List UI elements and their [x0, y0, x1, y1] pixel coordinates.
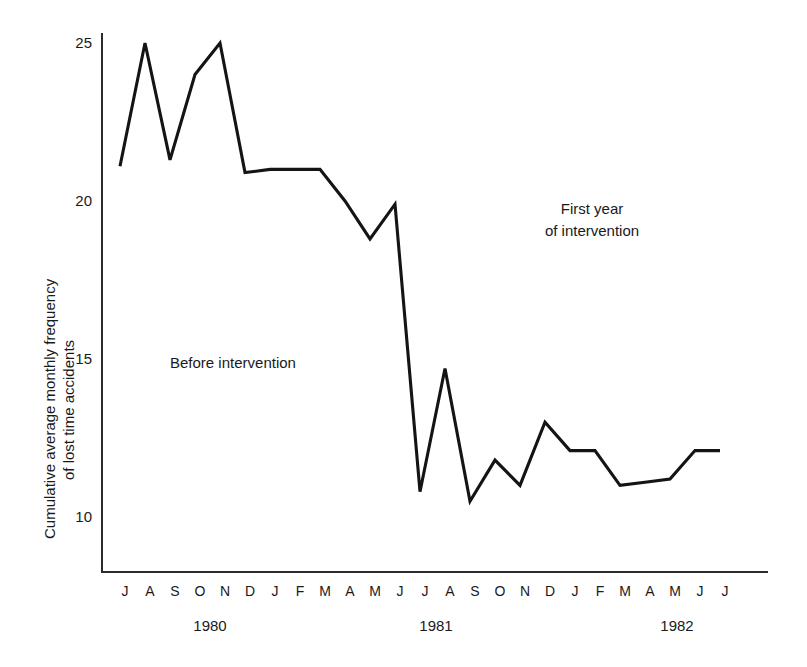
x-group-label-year: 1980 — [180, 617, 240, 634]
annotation-before-intervention: Before intervention — [170, 354, 296, 371]
x-tick-label-month: S — [465, 583, 485, 599]
x-tick-label-month: F — [290, 583, 310, 599]
x-tick-label-month: N — [215, 583, 235, 599]
chart-figure: Cumulative average monthly frequency of … — [0, 0, 807, 667]
x-tick-label-month: M — [315, 583, 335, 599]
x-tick-label-month: A — [440, 583, 460, 599]
x-tick-label-month: J — [415, 583, 435, 599]
x-tick-label-month: S — [165, 583, 185, 599]
data-series-line — [120, 43, 720, 501]
x-tick-label-month: A — [140, 583, 160, 599]
x-group-label-year: 1981 — [406, 617, 466, 634]
annotation-first-year-line-2: of intervention — [497, 220, 687, 242]
x-tick-label-month: M — [615, 583, 635, 599]
x-tick-label-month: J — [565, 583, 585, 599]
x-tick-label-month: J — [690, 583, 710, 599]
x-tick-label-month: D — [240, 583, 260, 599]
annotation-first-year-of-intervention: First year of intervention — [497, 198, 687, 242]
x-group-label-year: 1982 — [647, 617, 707, 634]
x-tick-label-month: F — [590, 583, 610, 599]
x-tick-label-month: D — [540, 583, 560, 599]
x-tick-label-month: J — [715, 583, 735, 599]
annotation-first-year-line-1: First year — [497, 198, 687, 220]
x-tick-label-month: J — [265, 583, 285, 599]
x-tick-label-month: A — [340, 583, 360, 599]
x-tick-label-month: J — [115, 583, 135, 599]
x-tick-label-month: O — [190, 583, 210, 599]
x-tick-label-month: M — [365, 583, 385, 599]
x-tick-label-month: M — [665, 583, 685, 599]
x-tick-label-month: J — [390, 583, 410, 599]
x-tick-label-month: N — [515, 583, 535, 599]
x-tick-label-month: O — [490, 583, 510, 599]
x-tick-label-month: A — [640, 583, 660, 599]
plot-area — [0, 0, 807, 667]
